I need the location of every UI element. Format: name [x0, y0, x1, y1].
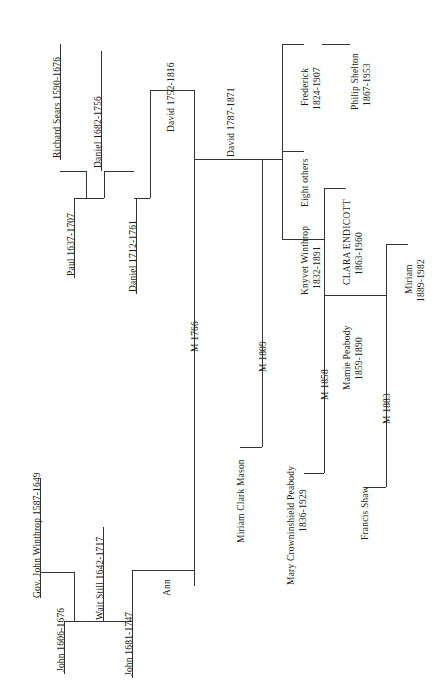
line-paul-span	[74, 198, 86, 199]
line-m1883	[386, 244, 387, 487]
label-david-1787: David 1787-1871	[226, 87, 237, 157]
label-miriam-shaw-name: Miriam	[404, 264, 415, 294]
label-m1858: M 1858	[320, 369, 331, 400]
label-daniel-1712: Daniel 1712-1761	[128, 220, 139, 292]
line-paul-drop	[86, 171, 87, 198]
label-knyvet-name: Knyvet Winthrop	[300, 226, 311, 295]
label-philip-shelton-name: Philip Shelton	[350, 53, 361, 110]
line-daniel1712-to-david	[134, 198, 150, 199]
label-philip-shelton-dates: 1867-1953	[362, 63, 373, 106]
label-m1883: M 1883	[382, 393, 393, 424]
line-john1681-riser	[132, 570, 133, 621]
label-frederick-name: Frederick	[300, 68, 311, 106]
line-to-frederick	[282, 44, 304, 45]
label-paul-sears: Paul 1637-1707	[66, 213, 77, 276]
label-knyvet-dates: 1832-1891	[312, 246, 323, 289]
scan-artifact	[72, 48, 81, 50]
label-mary-peabody-name: Mary Crowninshield Peabody	[286, 466, 297, 585]
label-eight-others: Eight others	[300, 158, 311, 207]
label-miriam-clark-mason: Miriam Clark Mason	[236, 459, 247, 543]
label-m1766: M 1766	[190, 321, 201, 352]
label-ann: Ann	[162, 579, 173, 596]
label-frederick-dates: 1824-1907	[312, 67, 323, 110]
label-gov-john-winthrop: Gov. John Winthrop 1587-1649	[32, 472, 43, 598]
line-david1787-children-bus	[282, 44, 283, 240]
label-richard-sears: Richard Sears 1590-1676	[52, 57, 63, 158]
line-david1787-bus-entry	[218, 159, 282, 160]
label-john-1606: John 1606-1676	[56, 608, 67, 672]
label-mary-peabody-dates: 1836-1929	[298, 489, 309, 532]
label-m1809: M 1809	[258, 341, 269, 372]
label-mamie-peabody-dates: 1859-1890	[354, 337, 365, 380]
label-daniel-1682: Daniel 1682-1756	[93, 96, 104, 168]
line-paul-to-daniel1682	[86, 198, 104, 199]
line-m1858-to-mary	[304, 473, 324, 474]
line-daniel1682-span	[104, 171, 134, 172]
line-to-eight-others	[282, 151, 304, 152]
line-gov-to-john1606	[40, 572, 74, 573]
line-richard-to-paul	[60, 171, 86, 172]
label-clara-endicott-dates: 1863-1960	[354, 232, 365, 275]
line-john1606-drop	[74, 572, 75, 621]
line-m1858	[324, 188, 325, 473]
line-john1681-to-ann	[132, 570, 194, 571]
line-mamie-to-m1883	[346, 295, 386, 296]
line-m1809-to-miriam-mason	[240, 447, 262, 448]
line-to-mamie-peabody	[324, 295, 346, 296]
line-m1809	[262, 159, 263, 447]
line-to-clara-endicott	[324, 188, 346, 189]
label-john-1681: John 1681-1747	[124, 612, 135, 676]
label-clara-endicott-name: CLARA ENDICOTT	[342, 199, 353, 285]
family-tree-canvas: Richard Sears 1590-1676 Paul 1637-1707 D…	[0, 0, 442, 699]
label-francis-shaw: Francis Shaw	[360, 486, 371, 540]
label-wait-still: Wait Still 1642-1717	[95, 537, 106, 620]
line-knyvet-to-m1858	[304, 239, 324, 240]
label-mamie-peabody-name: Mamie Peabody	[342, 325, 353, 390]
label-miriam-shaw-dates: 1889-1982	[416, 259, 427, 302]
line-daniel1682-riser	[104, 171, 105, 198]
line-to-miriam-shaw	[386, 244, 408, 245]
line-frederick-to-philip	[322, 44, 350, 45]
line-david1787-to-bus	[194, 159, 218, 160]
line-john1606-span	[64, 621, 74, 622]
label-david-1752: David 1752-1816	[166, 62, 177, 132]
line-david1752-riser	[150, 90, 151, 198]
